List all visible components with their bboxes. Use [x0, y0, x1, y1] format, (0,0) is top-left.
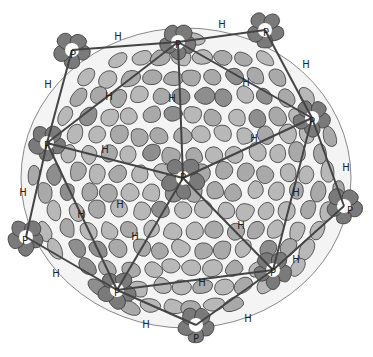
penton-label: P	[175, 39, 181, 50]
capsomer	[280, 164, 296, 182]
penton-label: P	[44, 140, 50, 151]
hexon-label: H	[142, 319, 150, 330]
hexon-label: H	[218, 19, 226, 30]
penton-label: P	[70, 49, 76, 60]
hexon-label: H	[237, 220, 245, 231]
capsomer	[131, 129, 148, 147]
capsomer	[181, 260, 200, 276]
capsomer	[213, 241, 231, 259]
hexon-label: H	[114, 31, 122, 42]
capsomer	[215, 89, 232, 107]
hexon-label: H	[292, 254, 300, 265]
capsid-illustration: PPPPPPPPPPPHHHHHHHHHHHHHHHHHHHHH	[0, 0, 373, 357]
hexon-label: H	[52, 268, 60, 279]
hexon-label: H	[250, 133, 258, 144]
hexon-label: H	[292, 187, 300, 198]
hexon-label: H	[242, 77, 250, 88]
capsomer	[142, 70, 162, 85]
capsomer	[38, 183, 52, 204]
hexon-label: H	[244, 313, 252, 324]
capsomer	[202, 260, 222, 277]
capsomer	[205, 221, 224, 238]
hexon-label: H	[44, 79, 52, 90]
capsomer	[186, 222, 203, 240]
penton-label: P	[193, 333, 199, 344]
hexon-label: H	[105, 91, 113, 102]
capsomer	[82, 183, 98, 201]
capsomer	[182, 70, 201, 86]
capsomer	[131, 86, 149, 103]
penton-label: P	[347, 205, 353, 216]
penton-label: P	[114, 287, 120, 298]
hexon-label: H	[19, 187, 27, 198]
hexon-label: H	[77, 209, 85, 220]
hexon-label: H	[198, 277, 206, 288]
capsid-diagram: PPPPPPPPPPPHHHHHHHHHHHHHHHHHHHHH	[0, 0, 373, 357]
capsomer	[192, 126, 211, 143]
capsomer	[299, 166, 314, 184]
hexon-label: H	[131, 231, 139, 242]
capsomer	[174, 202, 191, 219]
hexon-label: H	[342, 162, 350, 173]
penton-label: P	[263, 27, 269, 38]
capsomer	[194, 200, 212, 218]
penton-label: P	[180, 172, 186, 183]
hexon-label: H	[168, 93, 176, 104]
penton-label: P	[22, 235, 28, 246]
penton-label: P	[309, 116, 315, 127]
hexon-label: H	[101, 144, 109, 155]
capsomer	[120, 146, 136, 164]
hexon-label: H	[116, 199, 124, 210]
capsomer	[134, 202, 151, 220]
penton-label: P	[270, 267, 276, 278]
hexon-label: H	[302, 59, 310, 70]
capsomer	[184, 107, 202, 124]
